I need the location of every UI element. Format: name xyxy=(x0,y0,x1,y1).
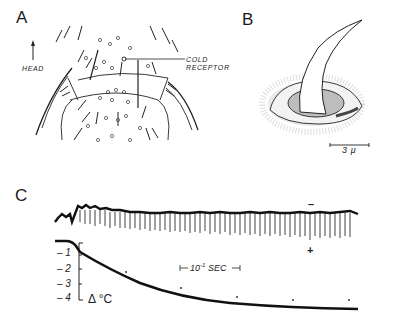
figure-drawings xyxy=(0,0,398,317)
impulse-trace xyxy=(55,205,358,240)
scale-bar-b xyxy=(330,143,369,147)
temperature-curve xyxy=(55,241,358,309)
sensillum-drawing xyxy=(262,20,362,132)
time-marker-dots xyxy=(125,271,350,301)
time-scale-bar xyxy=(180,265,240,271)
antenna-sensilla-dots xyxy=(84,36,149,141)
antenna-small-hairs xyxy=(56,26,178,140)
